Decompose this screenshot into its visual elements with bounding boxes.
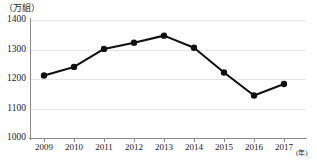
data-point-2014 <box>191 45 197 51</box>
data-point-2017 <box>281 81 287 87</box>
series-layer <box>0 0 317 163</box>
data-point-2012 <box>131 40 137 46</box>
data-point-2016 <box>251 92 257 98</box>
data-point-2011 <box>101 46 107 52</box>
line-chart: （万組） 14001300120011001000 20092010201120… <box>0 0 317 163</box>
series-line <box>44 36 284 96</box>
data-point-2013 <box>161 32 167 38</box>
data-point-2010 <box>71 64 77 70</box>
data-point-2009 <box>41 72 47 78</box>
data-point-2015 <box>221 69 227 75</box>
